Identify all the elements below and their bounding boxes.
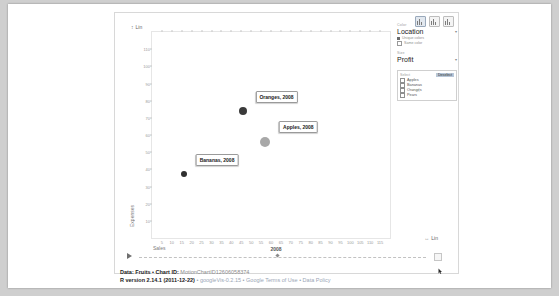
x-tick-label: 105	[357, 240, 364, 245]
color-option-same-label: Same color	[404, 41, 422, 46]
data-point-label-apples[interactable]: Apples, 2008	[279, 121, 318, 133]
caption-line-2: R version 2.14.1 (2011-12-22) • googleVi…	[120, 277, 330, 285]
x-tick-label: 10	[170, 240, 174, 245]
x-tick-label: 60	[269, 240, 273, 245]
panel-resize-handle[interactable]: ⋮	[417, 87, 421, 92]
data-point-bananas[interactable]	[181, 171, 187, 177]
x-axis-scale-toggle[interactable]: ↔ Lin	[424, 235, 438, 241]
motionchart-frame: ↕ Lin 1020304050607080901001105101520253…	[114, 12, 459, 274]
y-tick-mark	[150, 49, 152, 50]
y-tick-label: 70	[146, 115, 150, 120]
x-tick-label: 115	[377, 240, 383, 245]
x-tick-mark	[171, 30, 172, 32]
x-tick-mark	[191, 30, 192, 32]
y-tick-label: 40	[146, 167, 150, 172]
motionchart-container: ↕ Lin 1020304050607080901001105101520253…	[114, 12, 459, 282]
x-tick-mark	[241, 30, 242, 32]
y-tick-mark	[150, 152, 152, 153]
color-section: Color Location ▾ Unique colors Same colo…	[397, 23, 457, 46]
legend-item[interactable]: Pears	[400, 93, 454, 98]
x-tick-mark	[360, 30, 361, 32]
y-tick-label: 80	[146, 98, 150, 103]
x-tick-label: 85	[318, 240, 322, 245]
timeline-year-label: 2008	[270, 246, 281, 252]
y-tick-label: 90	[146, 81, 150, 86]
x-tick-label: 80	[308, 240, 312, 245]
y-tick-label: 10	[146, 218, 150, 223]
caption-links: • googleVis-0.2.15 • Google Terms of Use…	[196, 277, 330, 283]
y-axis-label[interactable]: Expenses	[129, 205, 135, 227]
data-point-label-bananas[interactable]: Bananas, 2008	[196, 154, 239, 166]
x-tick-label: 20	[189, 240, 193, 245]
x-tick-mark	[231, 30, 232, 32]
swatch-outline-icon	[397, 41, 402, 46]
x-tick-mark	[340, 30, 341, 32]
y-tick-mark	[150, 117, 152, 118]
x-tick-mark	[181, 30, 182, 32]
swatch-icon	[397, 37, 400, 40]
caption: Data: Fruits • Chart ID: MotionChartID12…	[120, 269, 330, 284]
timeline-end-icon[interactable]	[434, 253, 442, 261]
data-point-apples[interactable]	[260, 137, 270, 147]
x-tick-mark	[320, 30, 321, 32]
y-tick-label: 30	[146, 184, 150, 189]
updown-arrow-icon: ↕	[131, 24, 134, 30]
color-select-value: Location	[397, 27, 423, 36]
series-legend-box: Select Deselect ApplesBananasOrangesPear…	[397, 70, 457, 101]
x-tick-label: 30	[209, 240, 213, 245]
x-tick-mark	[310, 30, 311, 32]
x-tick-mark	[380, 30, 381, 32]
chevron-down-icon[interactable]: ▾	[455, 55, 457, 64]
x-scale-label: Lin	[431, 235, 438, 241]
checkbox-icon[interactable]	[400, 93, 405, 98]
data-point-oranges[interactable]	[239, 107, 247, 115]
timeline-track[interactable]	[139, 257, 426, 259]
x-tick-mark	[290, 30, 291, 32]
x-tick-label: 25	[199, 240, 203, 245]
x-tick-mark	[280, 30, 281, 32]
caption-line-1: Data: Fruits • Chart ID: MotionChartID12…	[120, 269, 330, 277]
color-select[interactable]: Location ▾	[397, 27, 457, 36]
x-tick-label: 70	[289, 240, 293, 245]
y-tick-label: 100	[143, 64, 150, 69]
color-option-same[interactable]: Same color	[397, 41, 457, 46]
y-tick-label: 60	[146, 133, 150, 138]
caption-chart-id: MotionChartID12606058374	[180, 269, 249, 275]
timeline-control[interactable]: 2008	[127, 249, 444, 265]
x-tick-mark	[330, 30, 331, 32]
x-tick-label: 90	[328, 240, 332, 245]
x-tick-mark	[300, 30, 301, 32]
y-tick-mark	[150, 169, 152, 170]
y-tick-mark	[150, 203, 152, 204]
size-select[interactable]: Profit ▾	[397, 55, 457, 64]
data-point-label-oranges[interactable]: Oranges, 2008	[255, 91, 297, 103]
caption-r-version: R version 2.14.1 (2011-12-22)	[120, 277, 196, 283]
play-icon[interactable]	[127, 253, 132, 259]
legend-title: Select	[400, 73, 410, 77]
x-tick-label: 95	[338, 240, 342, 245]
x-tick-label: 15	[180, 240, 184, 245]
y-tick-mark	[150, 83, 152, 84]
y-tick-mark	[150, 186, 152, 187]
plot-inner: 1020304050607080901001105101520253035404…	[152, 32, 390, 238]
y-tick-mark	[150, 135, 152, 136]
caption-data-label: Data: Fruits • Chart ID:	[120, 269, 180, 275]
x-tick-mark	[211, 30, 212, 32]
y-axis-scale-toggle[interactable]: ↕ Lin	[131, 24, 142, 30]
x-tick-label: 100	[347, 240, 354, 245]
legend-deselect-button[interactable]: Deselect	[436, 73, 454, 77]
y-tick-label: 50	[146, 150, 150, 155]
y-tick-mark	[150, 220, 152, 221]
x-tick-label: 110	[367, 240, 373, 245]
x-tick-label: 35	[219, 240, 223, 245]
x-tick-mark	[201, 30, 202, 32]
size-select-value: Profit	[397, 55, 413, 64]
x-tick-mark	[271, 30, 272, 32]
plot-area[interactable]: 1020304050607080901001105101520253035404…	[151, 31, 391, 239]
x-tick-mark	[350, 30, 351, 32]
chevron-down-icon[interactable]: ▾	[455, 27, 457, 36]
x-tick-mark	[221, 30, 222, 32]
control-panel: Color Location ▾ Unique colors Same colo…	[397, 23, 457, 101]
document-sheet: ↕ Lin 1020304050607080901001105101520253…	[8, 4, 551, 288]
y-tick-label: 110	[144, 47, 150, 52]
